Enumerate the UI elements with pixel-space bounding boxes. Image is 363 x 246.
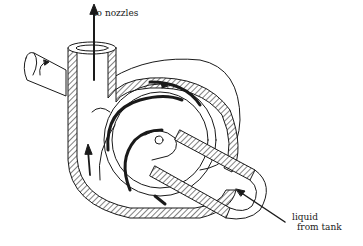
inlet-label-line2: from tank <box>292 222 342 232</box>
outlet-label: to nozzles <box>93 8 138 18</box>
inlet-flow-arrow <box>236 189 285 222</box>
centrifugal-pump-diagram <box>0 0 363 246</box>
inlet-label: liquid from tank <box>292 212 342 232</box>
inlet-label-line1: liquid <box>292 212 342 222</box>
drive-shaft <box>24 53 66 96</box>
